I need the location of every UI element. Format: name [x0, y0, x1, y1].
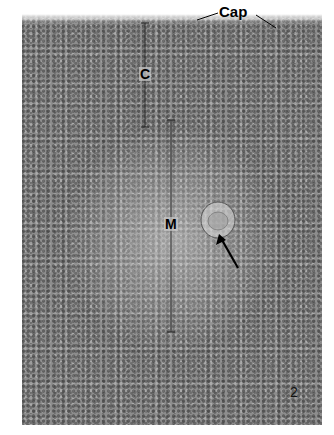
capsule-label: Cap — [219, 5, 247, 19]
cortex-label: C — [139, 67, 151, 81]
figure-number: 2 — [290, 384, 298, 400]
cap-leader-left — [197, 13, 218, 20]
arrow-icon — [222, 240, 238, 268]
medulla-label: M — [164, 217, 178, 231]
cap-leader-right — [256, 15, 276, 28]
